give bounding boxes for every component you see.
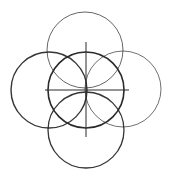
- right-circle: [85, 51, 161, 127]
- diagram-svg: [0, 0, 170, 181]
- circles-diagram: [0, 0, 170, 181]
